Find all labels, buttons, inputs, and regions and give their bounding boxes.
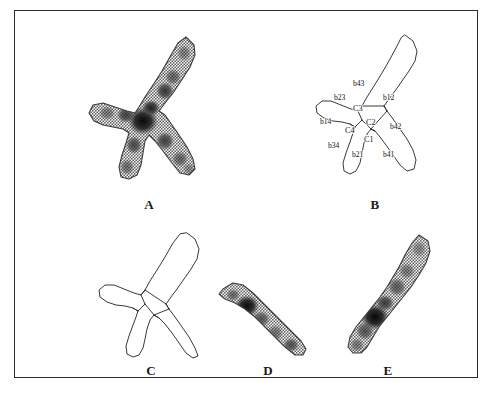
panel-c [83, 229, 223, 361]
panel-a-letter: A [137, 197, 161, 213]
region-label-c3: C3 [353, 104, 363, 113]
panel-a [77, 29, 217, 195]
figure-root: A b43 b12 b23 b14 [0, 0, 492, 394]
region-label-c2: C2 [366, 118, 376, 127]
region-label-c1: C1 [364, 135, 374, 144]
cut-label-b41: b41 [383, 150, 395, 159]
cut-label-b14: b14 [320, 117, 332, 126]
cut-label-b21: b21 [352, 150, 364, 159]
panel-e-image [333, 231, 453, 363]
panel-b-outline: b43 b12 b23 b14 b42 b34 b21 b41 C3 C2 C4… [301, 29, 441, 195]
panel-d-image [203, 259, 323, 365]
panel-a-image [77, 29, 217, 195]
cut-label-b23: b23 [334, 93, 346, 102]
panel-b-letter: B [363, 197, 387, 213]
panel-c-letter: C [139, 363, 163, 379]
panel-e-letter: E [376, 363, 400, 379]
panel-d [203, 259, 323, 365]
panel-d-letter: D [256, 363, 280, 379]
panel-c-outline [83, 229, 223, 361]
cut-label-b42: b42 [390, 122, 402, 131]
cut-label-b43: b43 [353, 79, 365, 88]
region-label-c4: C4 [345, 126, 355, 135]
panel-e [333, 231, 453, 363]
panel-b: b43 b12 b23 b14 b42 b34 b21 b41 C3 C2 C4… [301, 29, 441, 195]
figure-frame: A b43 b12 b23 b14 [14, 10, 478, 378]
cut-label-b34: b34 [328, 141, 340, 150]
cut-label-b12: b12 [383, 93, 395, 102]
